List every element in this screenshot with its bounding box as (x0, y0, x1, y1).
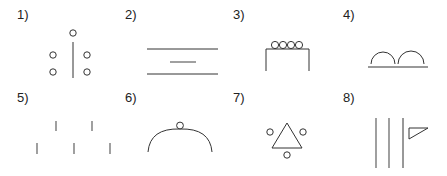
circle-icon (70, 30, 76, 36)
flag-icon (409, 128, 428, 139)
panel-1-figure (50, 30, 90, 78)
panel-7-figure (267, 123, 306, 158)
arch-icon (371, 52, 395, 64)
arch-icon (398, 51, 424, 64)
figure-canvas (0, 0, 447, 176)
circle-icon (84, 69, 90, 75)
panel-6-figure (148, 122, 212, 152)
circle-icon (295, 41, 302, 48)
circle-icon (271, 41, 278, 48)
panel-2-figure (147, 49, 218, 74)
circle-icon (284, 152, 290, 158)
circle-icon (84, 52, 90, 58)
circle-icon (50, 52, 56, 58)
circle-icon (279, 41, 286, 48)
panel-5-figure (37, 121, 110, 154)
panel-8-figure (376, 118, 428, 168)
circle-icon (267, 129, 273, 135)
circle-icon (300, 129, 306, 135)
triangle-shape (272, 123, 302, 148)
circle-icon (177, 122, 184, 129)
arc-shape (148, 129, 212, 152)
table-shape (266, 49, 309, 71)
circle-icon (287, 41, 294, 48)
circle-icon (50, 69, 56, 75)
panel-3-figure (266, 41, 309, 71)
panel-4-figure (368, 51, 428, 67)
